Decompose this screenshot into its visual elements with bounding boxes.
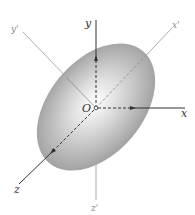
origin-point: [94, 106, 98, 110]
x-axis-label: x: [181, 107, 188, 120]
z-axis-label: z: [13, 183, 20, 196]
origin-label: O: [82, 102, 91, 115]
y-axis-label: y: [84, 17, 92, 30]
z-prime-axis-label: z': [90, 203, 98, 213]
y-prime-axis-label: y': [10, 24, 19, 34]
x-prime-axis-label: x': [172, 20, 180, 30]
z-axis-outer: [19, 152, 52, 184]
ellipsoid-diagram: O x y z x' y' z': [0, 0, 195, 215]
